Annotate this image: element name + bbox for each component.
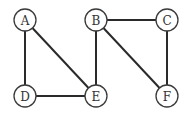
node-a: A — [14, 9, 36, 31]
node-c-label: C — [162, 14, 171, 28]
node-d: D — [14, 85, 36, 107]
node-b: B — [85, 9, 107, 31]
node-d-label: D — [20, 90, 30, 104]
node-e-label: E — [92, 90, 101, 104]
node-a-label: A — [20, 14, 30, 28]
edge-b-f — [96, 20, 167, 96]
node-e: E — [85, 85, 107, 107]
graph-diagram: A B C D E F — [0, 0, 190, 114]
edge-a-e — [25, 20, 96, 96]
node-f: F — [156, 85, 178, 107]
node-c: C — [156, 9, 178, 31]
node-f-label: F — [163, 90, 171, 104]
node-b-label: B — [92, 14, 101, 28]
